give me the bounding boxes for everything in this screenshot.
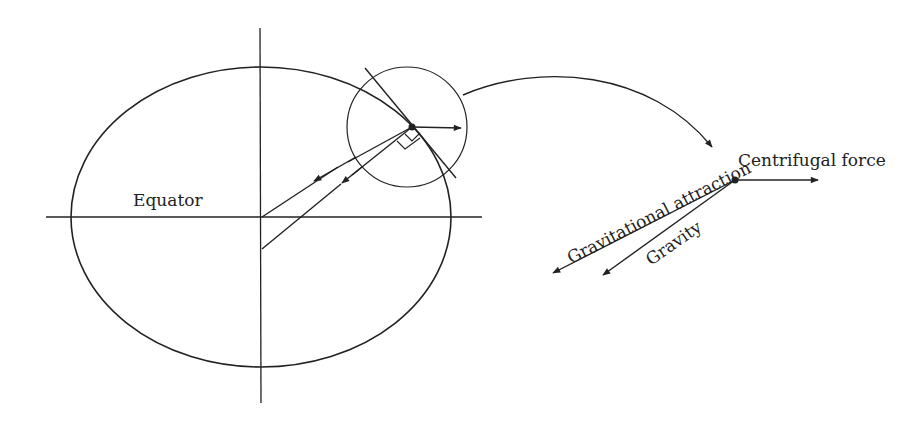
equator-label: Equator <box>133 190 203 210</box>
zoom-connector-arrow <box>463 77 712 147</box>
polar-axis <box>260 28 261 403</box>
centrifugal-force-label: Centrifugal force <box>738 150 886 170</box>
force-diagram: Centrifugal force Gravitational attracti… <box>553 150 886 275</box>
gravity-normal-line <box>262 127 412 249</box>
gravitational-line <box>262 127 412 217</box>
diagram-canvas: Equator Centrifugal force Gravitational … <box>0 0 921 424</box>
local-centrifugal-arrow <box>412 127 461 128</box>
tangent-line <box>365 68 456 178</box>
